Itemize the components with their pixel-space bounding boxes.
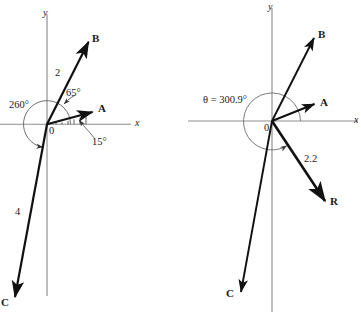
- right-vector-C: [241, 121, 272, 292]
- right-magnitude-R: 2.2: [304, 154, 317, 165]
- left-x-axis-label: x: [135, 118, 139, 128]
- right-vector-label-R: R: [330, 196, 338, 207]
- right-origin-label: 0: [264, 123, 269, 134]
- left-magnitude-B: 2: [55, 68, 60, 79]
- left-vector-label-B: B: [92, 33, 99, 44]
- left-vector-B: [47, 42, 89, 124]
- left-y-axis-label: y: [43, 8, 47, 18]
- right-vector-B: [272, 38, 314, 121]
- left-origin-label: 0: [49, 126, 54, 137]
- left-axes: [0, 14, 131, 296]
- right-vector-label-A: A: [320, 97, 328, 108]
- left-vector-label-A: A: [98, 103, 106, 114]
- right-x-axis-label: x: [354, 115, 358, 125]
- right-vector-label-C: C: [226, 288, 234, 299]
- figure-canvas: x y 0 A B C 2 4 15° 65° 260° x y 0 A B C…: [0, 0, 361, 323]
- right-axes: [188, 8, 358, 312]
- left-magnitude-C: 4: [15, 207, 20, 218]
- right-vector-label-B: B: [318, 29, 325, 40]
- left-vector-label-C: C: [1, 297, 9, 308]
- right-y-axis-label: y: [268, 2, 272, 12]
- right-angle-label-theta: θ = 300.9°: [203, 95, 247, 106]
- left-angle-label-260: 260°: [9, 100, 29, 111]
- left-angle-label-65: 65°: [66, 88, 81, 99]
- left-angle-label-15: 15°: [92, 137, 107, 148]
